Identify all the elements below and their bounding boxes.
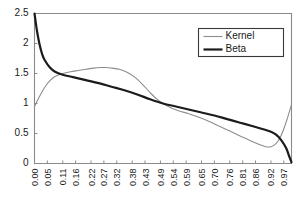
y-axis-tick-label: 2 bbox=[23, 37, 29, 48]
legend-label-kernel: Kernel bbox=[226, 30, 255, 41]
x-axis-tick-label: 0.38 bbox=[128, 169, 138, 187]
x-axis-tick-labels: 0.000.050.110.160.220.270.320.380.430.49… bbox=[30, 169, 289, 187]
x-axis-tick-label: 0.86 bbox=[251, 169, 261, 187]
x-axis-tick-label: 0.70 bbox=[210, 169, 220, 187]
y-axis-tick-label: 0.5 bbox=[15, 127, 29, 138]
x-axis-tick-label: 0.59 bbox=[182, 169, 192, 187]
x-axis-tick-label: 0.00 bbox=[30, 169, 40, 187]
line-chart: 00.511.522.5 0.000.050.110.160.220.270.3… bbox=[0, 0, 306, 201]
x-axis-tick-label: 0.92 bbox=[266, 169, 276, 187]
x-axis-tick-label: 0.76 bbox=[225, 169, 235, 187]
x-axis-tick-label: 0.54 bbox=[169, 169, 179, 187]
x-axis-tick-label: 0.22 bbox=[87, 169, 97, 187]
legend-label-beta: Beta bbox=[226, 43, 247, 54]
x-axis-tick-label: 0.81 bbox=[238, 169, 248, 187]
y-axis-tick-label: 0 bbox=[23, 157, 29, 168]
x-axis-tick-label: 0.32 bbox=[112, 169, 122, 187]
chart-legend: KernelBeta bbox=[199, 29, 284, 57]
y-axis-tick-label: 1 bbox=[23, 97, 29, 108]
series-line-kernel bbox=[35, 67, 292, 147]
x-axis-tick-label: 0.27 bbox=[99, 169, 109, 187]
x-axis-tick-label: 0.65 bbox=[197, 169, 207, 187]
x-axis-tick-label: 0.11 bbox=[58, 169, 68, 186]
y-axis-tick-label: 2.5 bbox=[15, 7, 29, 18]
x-axis-tick-label: 0.43 bbox=[141, 169, 151, 187]
x-axis-tick-label: 0.49 bbox=[156, 169, 166, 187]
y-axis-tick-labels: 00.511.522.5 bbox=[15, 7, 29, 168]
x-axis-tick-label: 0.97 bbox=[279, 169, 289, 187]
y-axis-tick-label: 1.5 bbox=[15, 67, 29, 78]
x-axis-tick-label: 0.16 bbox=[71, 169, 81, 187]
x-axis-tick-label: 0.05 bbox=[43, 169, 53, 187]
chart-container: 00.511.522.5 0.000.050.110.160.220.270.3… bbox=[0, 0, 306, 201]
